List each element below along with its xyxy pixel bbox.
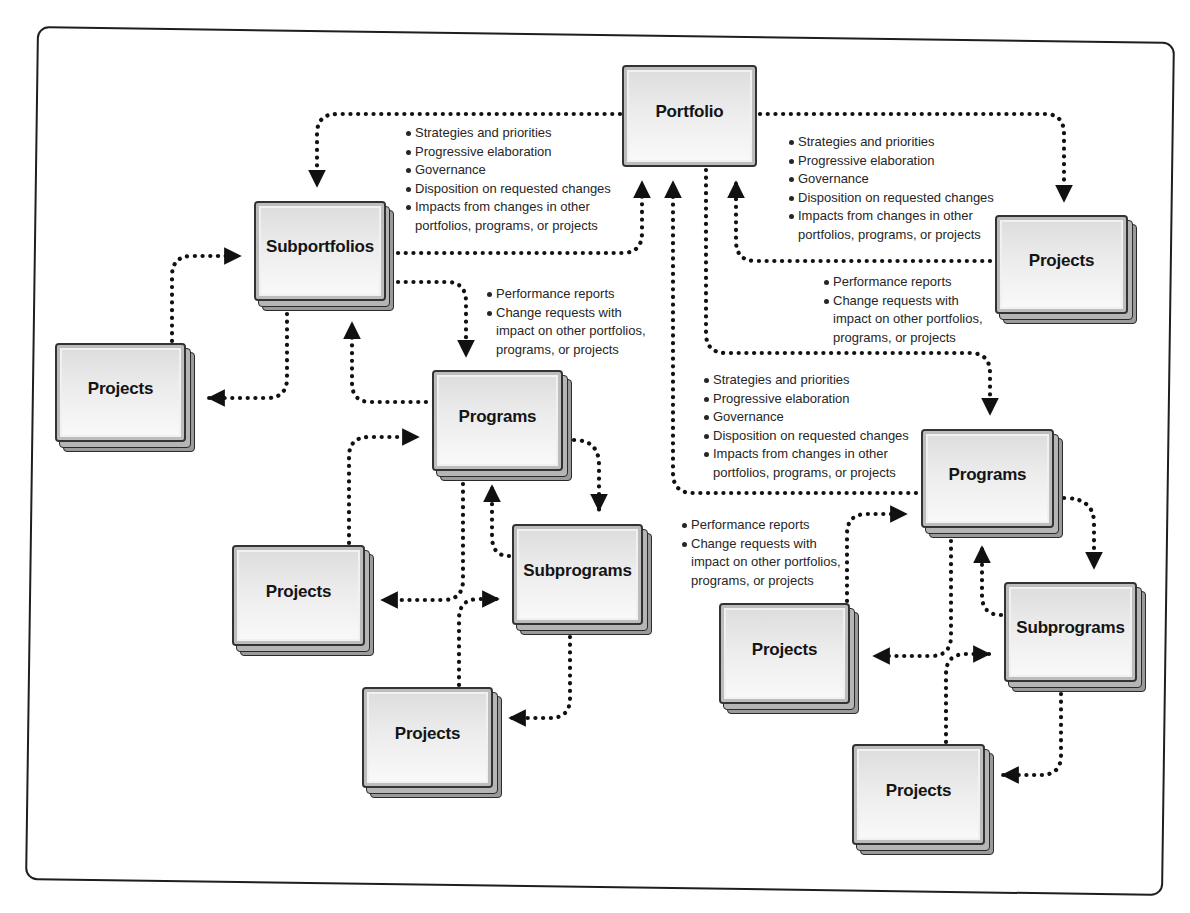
annotation-item: programs, or projects bbox=[487, 341, 646, 360]
node-projects-right-bottom[interactable]: Projects bbox=[852, 744, 985, 845]
annotation-item: Change requests with bbox=[824, 292, 983, 311]
annotation-item: programs, or projects bbox=[682, 572, 841, 591]
annotation-item: Performance reports bbox=[682, 516, 841, 535]
annotation-item: impact on other portfolios, bbox=[824, 310, 983, 329]
annotation-upward-top-right: Performance reports Change requests with… bbox=[824, 273, 983, 347]
connector-subprograms-left-to-projects-left-bottom bbox=[510, 637, 570, 718]
node-projects-right-mid[interactable]: Projects bbox=[719, 603, 850, 704]
annotation-item: programs, or projects bbox=[824, 329, 983, 348]
node-label: Programs bbox=[949, 465, 1027, 485]
node-programs-left[interactable]: Programs bbox=[432, 370, 563, 471]
annotation-item: portfolios, programs, or projects bbox=[704, 464, 909, 483]
annotation-item: Impacts from changes in other bbox=[704, 445, 909, 464]
annotation-item: impact on other portfolios, bbox=[682, 553, 841, 572]
connector-subprograms-right-to-projects-right-bottom bbox=[1003, 694, 1061, 775]
annotation-item: Disposition on requested changes bbox=[789, 189, 994, 208]
node-label: Subprograms bbox=[1016, 618, 1124, 638]
annotation-item: Impacts from changes in other bbox=[406, 198, 611, 217]
annotation-downward-top-right: Strategies and priorities Progressive el… bbox=[789, 133, 994, 244]
connector-subportfolios-to-programs-left bbox=[398, 282, 466, 356]
node-label: Projects bbox=[1029, 251, 1095, 271]
node-label: Projects bbox=[266, 582, 332, 602]
connector-programs-right-to-projects-right-mid bbox=[874, 541, 951, 656]
annotation-downward-center: Strategies and priorities Progressive el… bbox=[704, 371, 909, 482]
node-subprograms-left[interactable]: Subprograms bbox=[512, 524, 643, 625]
annotation-item: portfolios, programs, or projects bbox=[406, 217, 611, 236]
annotation-item: Impacts from changes in other bbox=[789, 207, 994, 226]
connector-subprograms-left-to-programs-left bbox=[492, 486, 509, 556]
annotation-item: Disposition on requested changes bbox=[704, 427, 909, 446]
annotation-item: Progressive elaboration bbox=[789, 152, 994, 171]
annotation-item: Governance bbox=[704, 408, 909, 427]
annotation-item: Strategies and priorities bbox=[789, 133, 994, 152]
connector-projects-right-bottom-to-subprograms-right bbox=[946, 654, 989, 742]
node-programs-right[interactable]: Programs bbox=[921, 429, 1054, 528]
connector-projects-left-bottom-to-subprograms-left bbox=[459, 599, 498, 685]
connector-subprograms-right-to-programs-right bbox=[982, 547, 1001, 615]
annotation-item: Progressive elaboration bbox=[406, 143, 611, 162]
node-label: Programs bbox=[459, 407, 537, 427]
connector-projects-right-mid-to-programs-right bbox=[847, 514, 906, 601]
connector-projects-left-mid-to-programs-left bbox=[349, 437, 418, 543]
node-subprograms-right[interactable]: Subprograms bbox=[1004, 582, 1137, 682]
annotation-item: Disposition on requested changes bbox=[406, 180, 611, 199]
node-label: Subportfolios bbox=[266, 237, 374, 257]
annotation-item: Progressive elaboration bbox=[704, 390, 909, 409]
node-projects-top-right[interactable]: Projects bbox=[995, 215, 1128, 314]
node-label: Projects bbox=[752, 640, 818, 660]
annotation-downward-left: Strategies and priorities Progressive el… bbox=[406, 124, 611, 235]
annotation-item: Strategies and priorities bbox=[704, 371, 909, 390]
annotation-item: portfolios, programs, or projects bbox=[789, 226, 994, 245]
annotation-item: impact on other portfolios, bbox=[487, 322, 646, 341]
node-label: Projects bbox=[886, 781, 952, 801]
connector-programs-right-to-subprograms-right bbox=[1064, 498, 1094, 568]
node-label: Projects bbox=[395, 724, 461, 744]
node-projects-left[interactable]: Projects bbox=[55, 343, 186, 442]
node-projects-left-bottom[interactable]: Projects bbox=[362, 687, 493, 788]
annotation-item: Strategies and priorities bbox=[406, 124, 611, 143]
node-portfolio[interactable]: Portfolio bbox=[622, 65, 757, 167]
node-label: Portfolio bbox=[655, 102, 723, 122]
node-label: Subprograms bbox=[523, 561, 631, 581]
node-projects-left-mid[interactable]: Projects bbox=[232, 545, 365, 646]
annotation-item: Change requests with bbox=[682, 535, 841, 554]
annotation-upward-center: Performance reports Change requests with… bbox=[682, 516, 841, 590]
annotation-item: Governance bbox=[789, 170, 994, 189]
annotation-item: Governance bbox=[406, 161, 611, 180]
connector-projects-left-to-subportfolios bbox=[172, 256, 240, 341]
node-subportfolios[interactable]: Subportfolios bbox=[254, 201, 386, 301]
connector-programs-left-to-subprograms-left bbox=[574, 440, 599, 510]
annotation-upward-left: Performance reports Change requests with… bbox=[487, 285, 646, 359]
connector-programs-left-to-projects-left-mid bbox=[382, 484, 463, 600]
annotation-item: Performance reports bbox=[824, 273, 983, 292]
connector-programs-left-to-subportfolios bbox=[352, 323, 426, 402]
annotation-item: Performance reports bbox=[487, 285, 646, 304]
node-label: Projects bbox=[88, 379, 154, 399]
annotation-item: Change requests with bbox=[487, 304, 646, 323]
connector-subportfolios-to-projects-left bbox=[209, 314, 287, 398]
